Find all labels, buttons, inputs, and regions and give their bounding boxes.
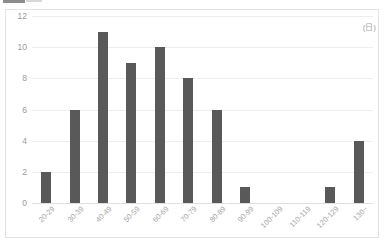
x-axis-tick-label-text: 30-39 — [66, 205, 85, 224]
bar — [70, 110, 80, 204]
bar-series — [32, 16, 373, 203]
y-axis: 024681012 — [6, 16, 30, 203]
x-axis-tick-label-text: 60-69 — [151, 205, 170, 224]
x-axis-tick-label-text: 80-89 — [208, 205, 227, 224]
y-axis-tick-label: 10 — [18, 43, 27, 52]
x-axis-tick-label-text: 130~ — [352, 205, 369, 222]
clipped-title-artifact — [3, 0, 25, 3]
y-axis-tick-label: 0 — [22, 199, 27, 208]
bar — [354, 141, 364, 203]
x-axis-tick-label: 50-59 — [123, 205, 142, 224]
x-axis-tick-label-text: 100-109 — [259, 205, 284, 230]
x-axis-tick-label: 40-49 — [94, 205, 113, 224]
bar — [126, 63, 136, 203]
x-axis-tick-label-text: 20-29 — [38, 205, 57, 224]
bar — [212, 110, 222, 204]
x-axis-tick-label: 110-119 — [288, 205, 312, 229]
y-axis-tick-label: 2 — [22, 168, 27, 177]
x-axis-tick-label: 20-29 — [38, 205, 57, 224]
bar — [240, 187, 250, 203]
x-axis-tick-label-text: 40-49 — [94, 205, 113, 224]
x-axis-unit-label: (日) — [363, 24, 376, 32]
x-axis-tick-label-text: 120-129 — [316, 205, 341, 230]
x-axis-tick-label: 130~ — [352, 205, 369, 222]
bar — [155, 47, 165, 203]
x-axis-tick-label: 120-129 — [316, 205, 341, 230]
x-axis-tick-label-text: 50-59 — [123, 205, 142, 224]
axis-baseline — [32, 203, 373, 204]
y-axis-tick-label: 8 — [22, 74, 27, 83]
x-axis-tick-label-text: 70-79 — [180, 205, 199, 224]
x-axis: 20-2930-3940-4950-5960-6970-7980-8990-99… — [32, 205, 373, 245]
x-axis-tick-label-text: 110-119 — [288, 205, 312, 229]
y-axis-tick-label: 12 — [18, 12, 27, 21]
bar — [183, 78, 193, 203]
x-axis-tick-label: 70-79 — [180, 205, 199, 224]
plot-area: 024681012 20-2930-3940-4950-5960-6970-79… — [6, 10, 378, 237]
x-axis-tick-label-text: 90-99 — [237, 205, 256, 224]
x-axis-tick-label: 80-89 — [208, 205, 227, 224]
x-axis-tick-label: 100-109 — [259, 205, 284, 230]
chart-frame: 024681012 20-2930-3940-4950-5960-6970-79… — [5, 9, 379, 238]
bar — [98, 32, 108, 203]
y-axis-tick-label: 4 — [22, 136, 27, 145]
bar — [325, 187, 335, 203]
y-axis-tick-label: 6 — [22, 105, 27, 114]
x-axis-tick-label: 60-69 — [151, 205, 170, 224]
bar — [41, 172, 51, 203]
x-axis-tick-label: 30-39 — [66, 205, 85, 224]
x-axis-tick-label: 90-99 — [237, 205, 256, 224]
clipped-title-artifact-secondary — [26, 0, 42, 2]
